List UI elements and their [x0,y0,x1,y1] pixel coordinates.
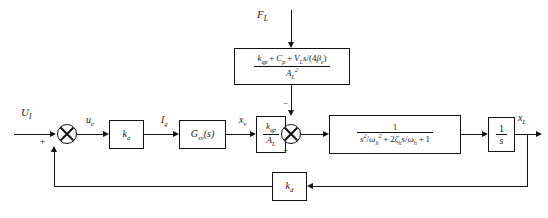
amplifier-label: ka [123,128,131,141]
signal-label-current: Ig [161,114,168,127]
signal-label-output: xL [518,112,526,125]
arrowhead-sum1-feedback [51,146,57,152]
sign-sum1-plus: + [40,137,45,146]
block-plant-second-order: 1 s2/ωh2 + 2ζhs/ωh + 1 [329,115,461,154]
wire-output-tap-down [527,134,528,187]
wire-feedback-to-gain [311,186,528,187]
signal-label-disturbance: FL [257,8,268,23]
block-servo-valve: Gsv(s) [179,120,226,149]
signal-label-error: ue [86,114,94,127]
flow-gain-expression: kqp AL [263,121,279,147]
plant-expression: 1 s2/ωh2 + 2ζhs/ωh + 1 [357,122,433,147]
sign-sum2-minus: − [283,99,288,108]
wire-feedback-riser [54,152,55,187]
servo-valve-label: Gsv(s) [191,128,214,141]
summing-junction-load [281,124,301,144]
signal-label-input: UI [21,106,31,121]
wire-input [14,134,54,135]
block-amplifier: ka [109,120,144,149]
block-feedback-gain: kd [272,172,307,201]
wire-gain-to-sum1 [54,186,272,187]
arrowhead-feedback-gain-input [307,183,313,189]
signal-label-valve-displacement: xv [239,114,246,127]
feedback-gain-label: kd [286,180,294,193]
arrowhead-sum1-input [50,131,56,137]
block-disturbance-transfer-function: kqp + Cp + VLs/(4βe) AL2 [234,48,350,85]
arrowhead-sum2-top [288,110,294,116]
wire-disturbance-to-sum2 [291,85,292,113]
block-integrator: 1 s [488,117,515,152]
arrowhead-output [536,131,542,137]
wire-disturbance-input [291,10,292,44]
disturbance-transfer-function-expression: kqp + Cp + VLs/(4βe) AL2 [254,53,329,80]
block-diagram: FL kqp + Cp + VLs/(4βe) AL2 − UI + − ue [0,0,548,218]
summing-junction-input [57,124,77,144]
sign-sum2-plus: + [283,146,288,155]
integrator-expression: 1 s [496,123,507,146]
